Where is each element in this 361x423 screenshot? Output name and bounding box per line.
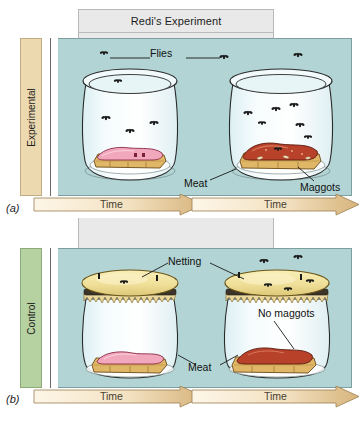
panel-control: Netting	[20, 248, 352, 388]
fly-icon	[293, 53, 303, 58]
side-label-experimental: Experimental	[20, 38, 42, 196]
label-no-maggots: No maggots	[258, 307, 315, 319]
figure-caption-a: (a)	[6, 202, 19, 214]
panel-a-vertical-rule	[50, 38, 51, 196]
panel-experimental-scene: Flies	[58, 38, 352, 196]
label-maggots: Maggots	[300, 181, 340, 193]
time-arrow-svg-a	[32, 194, 360, 216]
label-flies: Flies	[150, 47, 172, 59]
time-label-a-right: Time	[264, 198, 287, 210]
meat-leader-b2	[218, 353, 240, 367]
no-maggots-leader	[272, 319, 298, 351]
time-label-b-left: Time	[100, 390, 123, 402]
time-arrows-a: Time Time	[32, 194, 360, 216]
meat-leader-a	[210, 167, 244, 183]
redi-experiment-figure: Redi's Experiment Flies	[0, 0, 361, 423]
time-label-a-left: Time	[100, 198, 123, 210]
fly-icon	[259, 259, 269, 264]
label-meat-b: Meat	[188, 361, 211, 373]
figure-title-box: Redi's Experiment	[78, 9, 274, 33]
jar-control-left	[74, 265, 186, 385]
page-title: Redi's Experiment	[131, 15, 222, 27]
fly-icon	[293, 255, 303, 260]
jar-open-fresh	[76, 61, 184, 185]
jar-experimental-left	[76, 61, 184, 189]
side-label-experimental-text: Experimental	[26, 88, 37, 146]
time-arrow-svg-b	[32, 386, 360, 408]
jar-netted-fresh	[74, 265, 186, 381]
netting-leader-right	[210, 261, 248, 281]
time-label-b-right: Time	[264, 390, 287, 402]
label-meat-a: Meat	[184, 177, 207, 189]
side-label-control: Control	[20, 248, 42, 388]
panel-control-scene: Netting	[58, 248, 352, 388]
time-arrows-b: Time Time	[32, 386, 360, 408]
panel-b-vertical-rule	[50, 248, 51, 388]
label-netting: Netting	[168, 255, 201, 267]
figure-caption-b: (b)	[6, 393, 19, 405]
panel-connector-band	[78, 218, 274, 248]
panel-experimental: Flies	[20, 38, 352, 196]
side-label-control-text: Control	[26, 302, 37, 334]
